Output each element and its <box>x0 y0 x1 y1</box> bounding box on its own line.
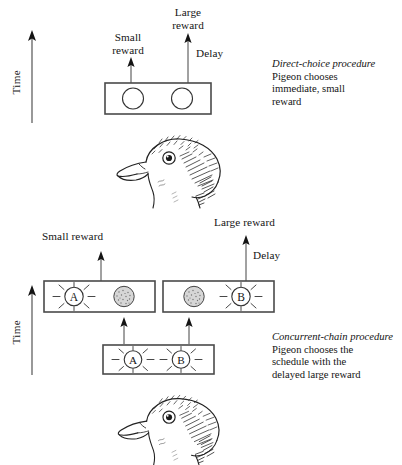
initial-link-chamber[interactable]: A B <box>102 344 215 375</box>
concurrent-chain-caption: Concurrent-chain procedure Pigeon choose… <box>272 331 402 381</box>
initial-to-left-arrow <box>117 316 131 344</box>
delay-label-top: Delay <box>196 47 223 60</box>
pigeon-head-top <box>112 126 230 208</box>
initial-key-a-label: A <box>129 354 137 366</box>
time-axis-top <box>22 28 42 123</box>
terminal-link-right-chamber[interactable]: B <box>162 280 275 313</box>
initial-to-right-arrow <box>182 316 196 344</box>
small-reward-label-bottom: Small reward <box>42 230 103 243</box>
large-reward-arrow-bottom <box>239 234 253 282</box>
initial-key-b-label: B <box>177 354 184 366</box>
pigeon-head-bottom <box>112 386 230 465</box>
concurrent-chain-caption-body: Pigeon chooses the schedule with the del… <box>272 344 402 382</box>
key-a-lit-label: A <box>70 291 79 303</box>
direct-choice-caption: Direct-choice procedure Pigeon chooses i… <box>272 58 402 108</box>
concurrent-chain-caption-title: Concurrent-chain procedure <box>272 331 402 344</box>
small-reward-arrow-top <box>124 56 138 83</box>
direct-choice-caption-title: Direct-choice procedure <box>272 58 402 71</box>
delay-label-bottom: Delay <box>253 249 280 262</box>
large-reward-arrow-top <box>181 32 195 83</box>
small-reward-label-top: Small reward <box>98 31 158 56</box>
key-b-lit-label: B <box>237 291 245 303</box>
figure-root: Time Small reward Large reward Delay Dir… <box>0 0 402 465</box>
time-axis-label-bottom: Time <box>10 320 22 344</box>
direct-choice-chamber[interactable] <box>104 82 212 115</box>
time-axis-label-top: Time <box>10 70 22 94</box>
direct-choice-caption-body: Pigeon chooses immediate, small reward <box>272 71 402 109</box>
small-reward-arrow-bottom <box>94 250 108 282</box>
large-reward-label-bottom: Large reward <box>214 216 275 229</box>
large-reward-label-top: Large reward <box>158 6 218 31</box>
time-axis-bottom <box>22 283 42 375</box>
terminal-link-left-chamber[interactable]: A <box>43 280 156 313</box>
